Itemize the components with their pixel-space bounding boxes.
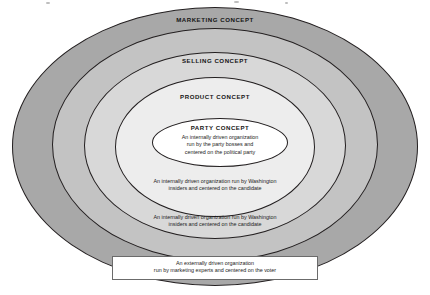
- caption-selling-line-2: insiders and centered on the candidate: [0, 221, 430, 228]
- caption-product-line-2: insiders and centered on the candidate: [0, 185, 430, 192]
- core-description-line-1: An internally driven organization: [152, 134, 288, 141]
- callout-line-2: run by marketing experts and centered on…: [115, 267, 315, 274]
- ring-label-selling: SELLING CONCEPT: [0, 57, 430, 64]
- core-description: An internally driven organization run by…: [152, 134, 288, 156]
- caption-selling-concept: An internally driven organization run by…: [0, 214, 430, 229]
- scan-artifact: [46, 2, 50, 4]
- callout-marketing-concept: An externally driven organization run by…: [112, 256, 318, 280]
- concentric-ellipse-diagram: MARKETING CONCEPT SELLING CONCEPT PRODUC…: [0, 0, 430, 295]
- scan-artifact: [285, 2, 288, 4]
- caption-selling-line-1: An internally driven organization run by…: [0, 214, 430, 221]
- core-description-line-2: run by the party bosses and: [152, 141, 288, 148]
- core-text-group: PARTY CONCEPT An internally driven organ…: [152, 124, 288, 168]
- callout-line-1: An externally driven organization: [115, 260, 315, 267]
- ring-label-product: PRODUCT CONCEPT: [0, 93, 430, 100]
- ring-label-marketing: MARKETING CONCEPT: [0, 16, 430, 23]
- ring-label-party: PARTY CONCEPT: [152, 124, 288, 131]
- caption-product-concept: An internally driven organization run by…: [0, 178, 430, 193]
- core-description-line-3: centered on the political party: [152, 149, 288, 156]
- caption-product-line-1: An internally driven organization run by…: [0, 178, 430, 185]
- scan-artifact: [234, 1, 239, 3]
